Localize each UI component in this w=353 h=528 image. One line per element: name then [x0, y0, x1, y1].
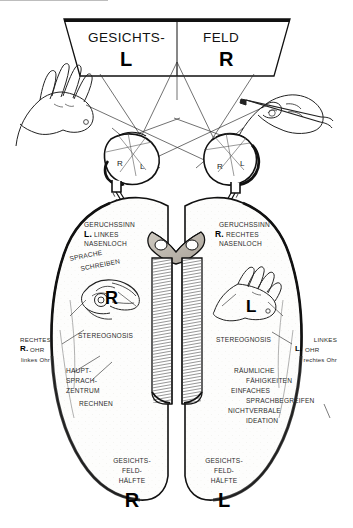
- right-visualfield-letter: L: [196, 490, 252, 511]
- right-function-line6: IDEATION: [246, 418, 278, 425]
- left-ear-line2: linkes Ohr: [21, 357, 50, 363]
- left-function-line4: RECHNEN: [79, 401, 113, 408]
- right-function-line2: FÄHIGKEITEN: [246, 378, 292, 385]
- figure-canvas: GESICHTS- FELD L R R L R L GERUCHSSINN L…: [0, 0, 353, 528]
- corpus-callosum: [152, 258, 202, 404]
- right-eyeball: [204, 133, 259, 193]
- right-function-line5: NICHTVERBALE: [228, 408, 281, 415]
- anatomy-illustration: [0, 0, 353, 528]
- banner-left-word: GESICHTS-: [88, 31, 165, 45]
- left-ear-line1: RECHTES: [20, 337, 51, 344]
- right-ear-marker-word: OHR: [305, 347, 319, 354]
- right-hand-letter: L: [246, 298, 257, 316]
- left-eye-label-r: R: [117, 160, 123, 168]
- right-visualfield-line1: GESICHTS-: [196, 458, 252, 465]
- left-hand-letter: R: [105, 289, 118, 308]
- left-smell-marker: L.: [84, 230, 92, 239]
- left-visualfield-line2: FELD-: [104, 468, 160, 475]
- right-smell-line2: RECHTES: [226, 232, 259, 239]
- right-eye-label-r: R: [217, 163, 223, 171]
- left-visualfield-line1: GESICHTS-: [104, 458, 160, 465]
- right-function-line4: SPRACHBEGREIFEN: [246, 398, 315, 405]
- left-function-line2: SPRACH-: [66, 378, 97, 385]
- banner-left-letter: L: [120, 49, 132, 70]
- right-smell-line1: GERUCHSSINN: [219, 222, 270, 229]
- left-eye-label-l: L: [140, 163, 145, 171]
- right-visualfield-line3: HÄLFTE: [196, 478, 252, 485]
- right-visualfield-line2: FELD-: [196, 468, 252, 475]
- right-function-line3: EINFACHES: [231, 388, 270, 395]
- right-ear-line2: rechtes Ohr: [281, 357, 337, 363]
- left-function-line1: HAUPT-: [66, 368, 91, 375]
- banner-right-word: FELD: [203, 31, 239, 45]
- banner-right-letter: R: [219, 49, 233, 70]
- right-smell-marker: R.: [215, 230, 224, 239]
- right-function-line1: RÄUMLICHE: [234, 368, 275, 375]
- right-smell-line3: NASENLOCH: [219, 241, 262, 248]
- left-ear-marker: R.: [20, 345, 28, 353]
- left-function-line3: ZENTRUM: [66, 388, 100, 395]
- right-ear-marker: L.: [295, 345, 303, 353]
- left-smell-line3: NASENLOCH: [84, 241, 127, 248]
- left-smell-line2: LINKES: [94, 232, 119, 239]
- left-eyeball: [105, 132, 160, 192]
- left-ear-marker-word: OHR: [30, 347, 44, 354]
- right-eye-label-l: L: [240, 160, 245, 168]
- right-ear-line1: LINKES: [287, 337, 337, 344]
- left-visualfield-letter: R: [104, 490, 160, 511]
- left-visualfield-line3: HÄLFTE: [104, 478, 160, 485]
- left-smell-line1: GERUCHSSINN: [84, 222, 135, 229]
- right-stereognosis-label: STEREOGNOSIS: [216, 337, 271, 344]
- left-stereognosis-label: STEREOGNOSIS: [78, 333, 133, 340]
